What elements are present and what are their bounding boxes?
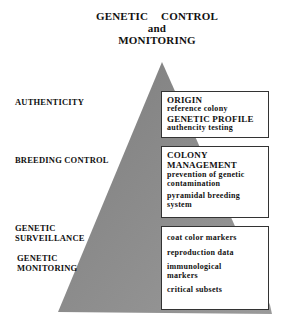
colony-heading-2: MANAGEMENT: [167, 160, 264, 170]
monitoring-box: coat color markers reproduction data imm…: [161, 226, 269, 310]
genetic-profile-heading: GENETIC PROFILE: [167, 114, 264, 124]
label-genetic-surveillance: GENETIC SURVEILLANCE: [15, 224, 85, 243]
label-genetic-monitoring-line-2: MONITORING: [17, 264, 77, 274]
monitoring-item-markers: markers: [167, 272, 264, 281]
label-genetic-monitoring: GENETIC MONITORING: [17, 254, 77, 273]
monitoring-item-critical-subsets: critical subsets: [167, 286, 264, 295]
label-breeding-control: BREEDING CONTROL: [15, 156, 109, 166]
monitoring-item-coat-color: coat color markers: [167, 234, 264, 243]
colony-line-4: system: [167, 201, 264, 210]
colony-management-box: COLONY MANAGEMENT prevention of genetic …: [161, 146, 269, 218]
label-authenticity: AUTHENTICITY: [15, 98, 84, 108]
origin-line-2: authencity testing: [167, 124, 264, 133]
colony-heading-1: COLONY: [167, 150, 264, 160]
monitoring-item-reproduction: reproduction data: [167, 249, 264, 258]
origin-line-1: reference colony: [167, 105, 264, 114]
colony-line-2: contamination: [167, 180, 264, 189]
label-genetic-surveillance-line-2: SURVEILLANCE: [15, 234, 85, 244]
origin-box: ORIGIN reference colony GENETIC PROFILE …: [161, 91, 269, 138]
